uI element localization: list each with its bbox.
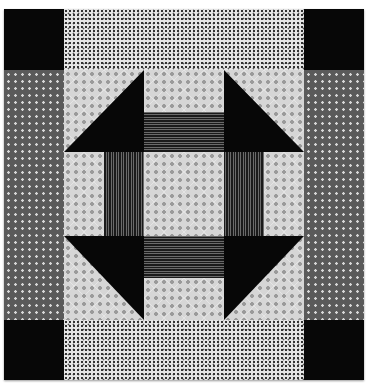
border-top [64, 9, 304, 70]
unit-left-light [64, 152, 104, 236]
unit-bottom-light [144, 278, 224, 320]
unit-top-stripe [144, 112, 224, 152]
quilt [4, 9, 364, 380]
border-bottom [64, 320, 304, 380]
corner-bottom-right [304, 320, 364, 380]
unit-top-light [144, 70, 224, 112]
hst-top-left [64, 70, 144, 152]
hst-top-right [224, 70, 304, 152]
center-square [144, 152, 224, 236]
corner-bottom-left [4, 320, 64, 380]
border-right [304, 70, 364, 320]
corner-top-left [4, 9, 64, 70]
unit-bottom-stripe [144, 236, 224, 278]
unit-right-light [264, 152, 304, 236]
hst-bottom-left [64, 236, 144, 320]
unit-right-stripe [224, 152, 264, 236]
unit-left-stripe [104, 152, 144, 236]
hst-bottom-right [224, 236, 304, 320]
border-left [4, 70, 64, 320]
corner-top-right [304, 9, 364, 70]
